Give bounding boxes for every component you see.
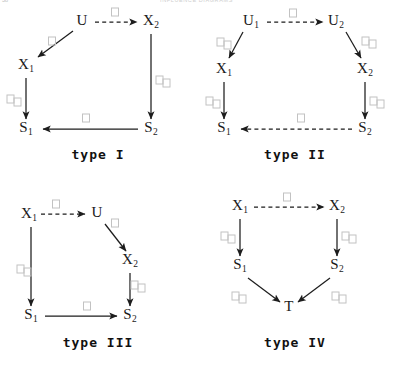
node-S2: S2 [144,120,157,138]
edge-S1-T [248,278,280,302]
edge-label-X2-S2 [156,76,171,85]
edge-label-X2-S2 [370,97,385,106]
node-X2: X2 [143,13,159,31]
caption-type-IV: type IV [264,335,326,350]
node-S2: S2 [330,257,343,275]
diagram-canvas: U1 U2 X1 X2 S1 S2 type II [197,0,393,182]
caption-type-I: type I [72,147,125,162]
edge-label-U-X2 [111,219,119,228]
node-U1: U1 [243,13,259,31]
node-S2: S2 [123,307,136,325]
figure-page: 38 INFLUENCE DIAGRAMS U X2 X1 S1 S2 [0,0,393,365]
node-X2: X2 [122,252,138,270]
diagram-type-II: U1 U2 X1 X2 S1 S2 type II [197,0,393,182]
node-T: T [284,299,293,317]
edge-label-S1-S2 [83,302,91,311]
edge-label-U-X2 [111,8,119,17]
edge-U2-X2 [346,32,361,58]
edge-label-X2-S2 [342,232,357,241]
edge-label-S2-S1 [297,114,305,123]
edge-label-S2-S1 [82,114,90,123]
node-X1: X1 [18,57,34,75]
edge-label-X1-S1 [7,95,22,104]
node-X1: X1 [216,61,232,79]
node-S1: S1 [19,120,32,138]
edge-label-U1-U2 [289,9,297,18]
node-S2: S2 [358,120,371,138]
edge-label-S1-T [232,292,247,301]
node-S1: S1 [217,120,230,138]
node-S1: S1 [233,257,246,275]
node-X1: X1 [232,198,248,216]
edge-label-X1-U [52,200,60,209]
diagram-type-I: U X2 X1 S1 S2 type I [0,0,196,182]
diagram-canvas: U X2 X1 S1 S2 type I [0,0,196,182]
node-X1: X1 [21,206,37,224]
node-S1: S1 [24,307,37,325]
node-U: U [91,205,102,223]
edge-label-X1-X2 [283,193,291,202]
edge-label-X1-S1 [221,232,236,241]
node-U: U [76,13,87,31]
diagram-canvas: X1 X2 S1 S2 T type IV [197,183,393,365]
edge-U-X2 [105,224,126,251]
edge-label-X1-S1 [17,265,32,274]
caption-type-III: type III [63,335,134,350]
diagram-type-IV: X1 X2 S1 S2 T type IV [197,183,393,365]
edge-label-S2-T [332,292,347,301]
diagram-type-III: X1 U X2 S1 S2 type III [0,183,196,365]
edge-label-X1-S1 [206,97,221,106]
node-U2: U2 [328,13,344,31]
node-X2: X2 [329,198,345,216]
edge-label-X2-S2 [131,281,146,290]
edge-S2-T [298,278,330,302]
diagram-canvas: X1 U X2 S1 S2 type III [0,183,196,365]
caption-type-II: type II [264,147,326,162]
edge-label-U-X1 [48,37,56,46]
edge-label-U2-X2 [362,37,377,46]
edge-label-U1-X1 [217,38,232,47]
node-X2: X2 [357,61,373,79]
